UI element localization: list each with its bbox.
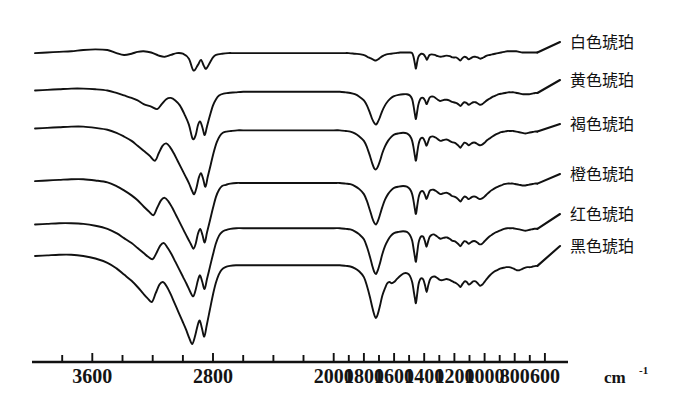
leader-line-white [537,42,560,53]
tick-label-3600: 3600 [72,365,112,387]
spectra-curves [35,49,537,344]
spectra-plot: 36002800200018001600140012001000800600 白… [0,0,683,406]
leader-line-red [537,214,560,229]
unit-text: cm [604,368,626,387]
leader-line-orange [537,174,560,184]
series-label-white: 白色琥珀 [570,33,634,52]
leader-line-black [537,246,560,266]
unit-superscript: -1 [639,364,648,376]
leader-line-yellow [537,80,560,93]
leader-lines [537,42,560,266]
leader-line-brown [537,124,560,132]
series-label-yellow: 黄色琥珀 [570,71,634,90]
ftir-spectra-figure: 36002800200018001600140012001000800600 白… [0,0,683,406]
spectrum-curve-black [35,255,537,344]
spectrum-curve-white [35,49,537,70]
tick-label-1000: 1000 [465,365,505,387]
series-label-orange: 橙色琥珀 [570,165,634,184]
tick-label-2800: 2800 [193,365,233,387]
series-label-brown: 褐色琥珀 [570,115,634,134]
series-label-red: 红色琥珀 [570,205,634,224]
x-axis [32,353,568,362]
spectrum-curve-yellow [35,89,537,140]
tick-label-600: 600 [530,365,560,387]
axis-unit-label: cm -1 [604,364,648,387]
x-axis-tick-labels: 36002800200018001600140012001000800600 [72,365,560,387]
series-labels: 白色琥珀黄色琥珀褐色琥珀橙色琥珀红色琥珀黑色琥珀 [570,33,634,256]
spectrum-curve-orange [35,179,537,249]
series-label-black: 黑色琥珀 [570,237,634,256]
tick-label-800: 800 [500,365,530,387]
